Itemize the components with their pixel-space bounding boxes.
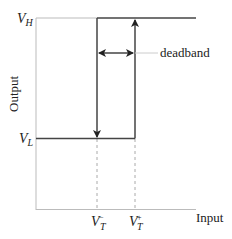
hysteresis-diagram: deadband VH VL V−T V+T Input Output xyxy=(0,0,232,239)
vt-minus-label: V−T xyxy=(91,213,107,232)
vt-plus-label: V+T xyxy=(129,213,144,232)
vl-label: VL xyxy=(19,131,34,148)
x-axis-label: Input xyxy=(196,210,224,225)
vh-label: VH xyxy=(17,11,34,28)
deadband-label: deadband xyxy=(160,45,210,60)
y-axis-label: Output xyxy=(6,76,21,113)
